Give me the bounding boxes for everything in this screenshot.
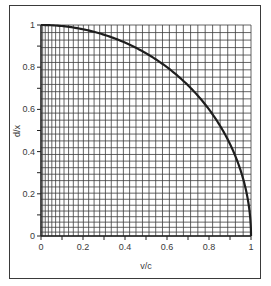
x-axis-label: v/c	[140, 261, 152, 271]
y-tick-label: 1	[30, 20, 35, 30]
x-tick-labels: 00.20.40.60.81	[38, 242, 253, 252]
axes	[41, 25, 251, 236]
y-axis-label: d/x	[12, 125, 22, 138]
x-tick-label: 0.2	[77, 242, 90, 252]
y-tick-label: 0.4	[22, 147, 35, 157]
x-tick-label: 0.6	[161, 242, 174, 252]
x-tick-label: 0.4	[119, 242, 132, 252]
x-tick-label: 0	[38, 242, 43, 252]
y-tick-label: 0	[30, 231, 35, 241]
y-tick-label: 0.2	[22, 189, 35, 199]
y-tick-label: 0.8	[22, 62, 35, 72]
tick-marks	[37, 25, 251, 240]
x-tick-label: 0.8	[203, 242, 216, 252]
chart-plot: 00.20.40.60.81 00.20.40.60.81 v/c d/x	[0, 0, 271, 286]
y-tick-label: 0.6	[22, 104, 35, 114]
y-tick-labels: 00.20.40.60.81	[22, 20, 35, 241]
x-tick-label: 1	[248, 242, 253, 252]
grid-lines	[41, 25, 251, 236]
data-curve	[41, 25, 251, 236]
